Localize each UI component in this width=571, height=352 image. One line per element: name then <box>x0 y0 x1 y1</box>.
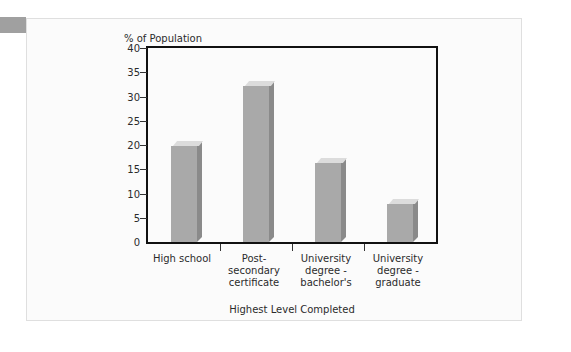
bar-side-face <box>197 141 202 242</box>
x-axis-tick-mark <box>364 244 365 251</box>
bar <box>243 86 269 242</box>
x-axis-tick-mark <box>220 244 221 251</box>
x-axis-category-label: Universitydegree -graduate <box>362 253 434 289</box>
y-axis-tick-label: 40 <box>127 43 140 54</box>
x-axis-label-line: Post- <box>218 253 290 265</box>
bar-front-face <box>243 86 269 242</box>
y-axis-tick-mark <box>140 121 147 122</box>
y-axis-tick-mark <box>140 169 147 170</box>
y-axis-tick-label: 25 <box>127 115 140 126</box>
y-axis-tick-mark <box>140 48 147 49</box>
bar-top-face <box>245 81 275 86</box>
x-axis-category-label: High school <box>146 253 218 265</box>
x-axis-category-label: Post-secondarycertificate <box>218 253 290 289</box>
x-axis-label-line: High school <box>146 253 218 265</box>
x-axis-label-line: certificate <box>218 277 290 289</box>
x-axis-label-line: bachelor's <box>290 277 362 289</box>
x-axis-label-line: secondary <box>218 265 290 277</box>
x-axis-category-label: Universitydegree -bachelor's <box>290 253 362 289</box>
y-axis-tick-mark <box>140 145 147 146</box>
y-axis-tick-label: 20 <box>127 140 140 151</box>
plot-area <box>148 48 436 242</box>
bar-top-face <box>389 199 419 204</box>
y-axis-tick-mark <box>140 218 147 219</box>
bar-side-face <box>413 199 418 242</box>
x-axis-label-line: degree - <box>290 265 362 277</box>
y-axis-tick-label: 15 <box>127 164 140 175</box>
bar <box>171 146 197 242</box>
y-axis-tick-labels: 0510152025303540 <box>112 46 140 244</box>
corner-tab-decoration <box>0 17 26 33</box>
y-axis-tick-label: 10 <box>127 188 140 199</box>
y-axis-tick-mark <box>140 194 147 195</box>
x-axis-label-line: degree - <box>362 265 434 277</box>
x-axis-category-labels: High schoolPost-secondarycertificateUniv… <box>146 253 438 301</box>
y-axis-tick-label: 30 <box>127 91 140 102</box>
y-axis-tick-mark <box>140 72 147 73</box>
bar-top-face <box>317 158 347 163</box>
bar-side-face <box>269 81 274 242</box>
x-axis-tick-mark <box>292 244 293 251</box>
x-axis-label-line: University <box>362 253 434 265</box>
x-axis-label-line: graduate <box>362 277 434 289</box>
bar-front-face <box>387 204 413 242</box>
bar-front-face <box>171 146 197 242</box>
y-axis-tick-label: 35 <box>127 67 140 78</box>
y-axis-tick-mark <box>140 97 147 98</box>
y-axis-tick-label: 0 <box>134 237 140 248</box>
bar-side-face <box>341 158 346 242</box>
chart-screenshot: % of Population 0510152025303540 High sc… <box>0 0 571 352</box>
x-axis-title: Highest Level Completed <box>146 304 438 315</box>
bar <box>387 204 413 242</box>
bar-front-face <box>315 163 341 242</box>
x-axis-label-line: University <box>290 253 362 265</box>
bar <box>315 163 341 242</box>
bar-top-face <box>173 141 203 146</box>
